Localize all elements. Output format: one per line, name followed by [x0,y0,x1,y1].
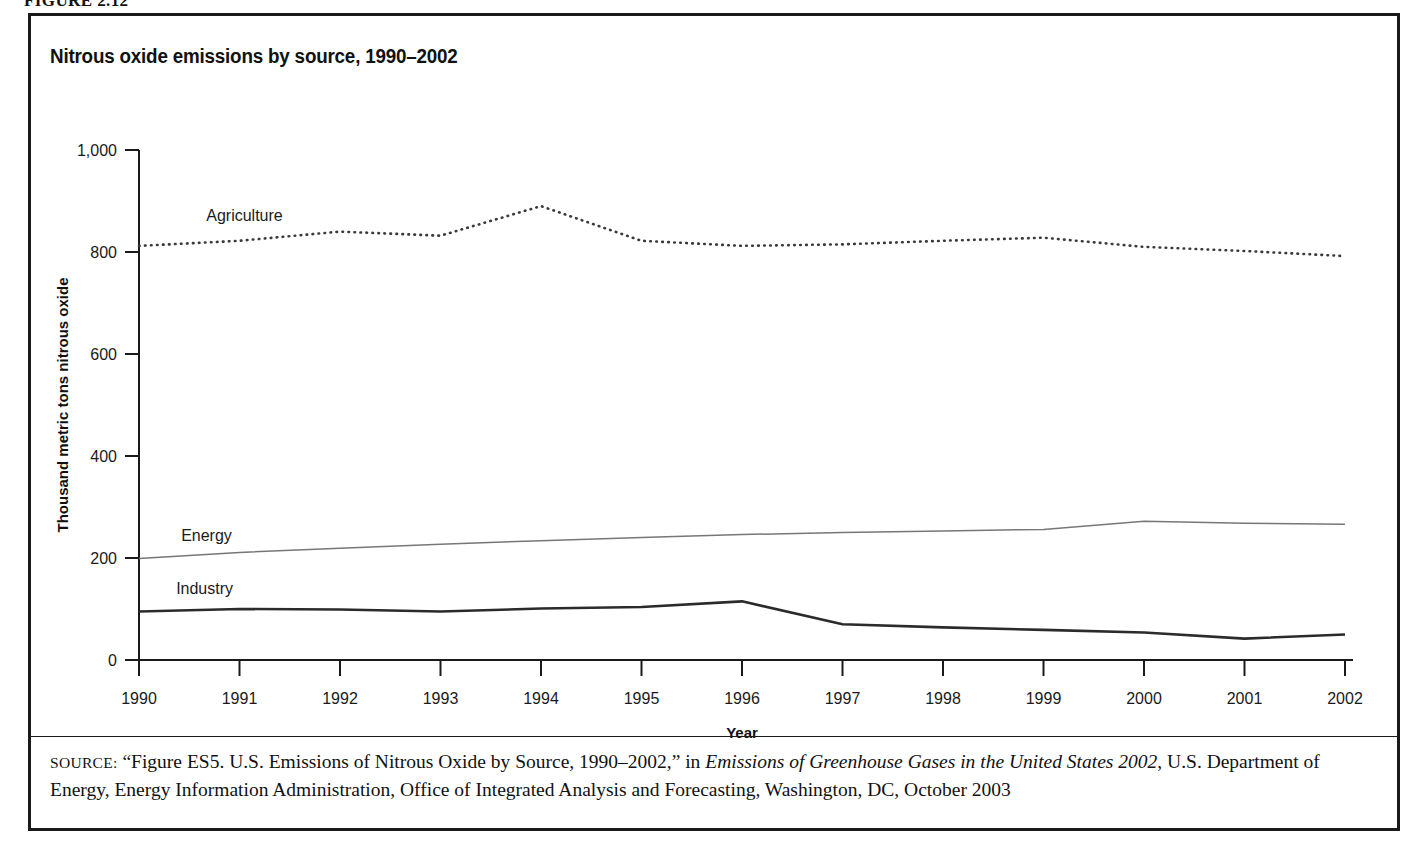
chart-title: Nitrous oxide emissions by source, 1990–… [50,45,458,68]
source-publication-title: Emissions of Greenhouse Gases in the Uni… [705,751,1157,772]
source-text-lead: “Figure ES5. U.S. Emissions of Nitrous O… [118,751,706,772]
figure-border-box [28,13,1400,831]
figure-caption: FIGURE 2.12 [24,0,129,11]
source-divider [31,736,1397,737]
source-label: SOURCE: [50,754,118,771]
figure-page: FIGURE 2.12 Nitrous oxide emissions by s… [0,0,1416,847]
source-note: SOURCE: “Figure ES5. U.S. Emissions of N… [50,748,1350,803]
